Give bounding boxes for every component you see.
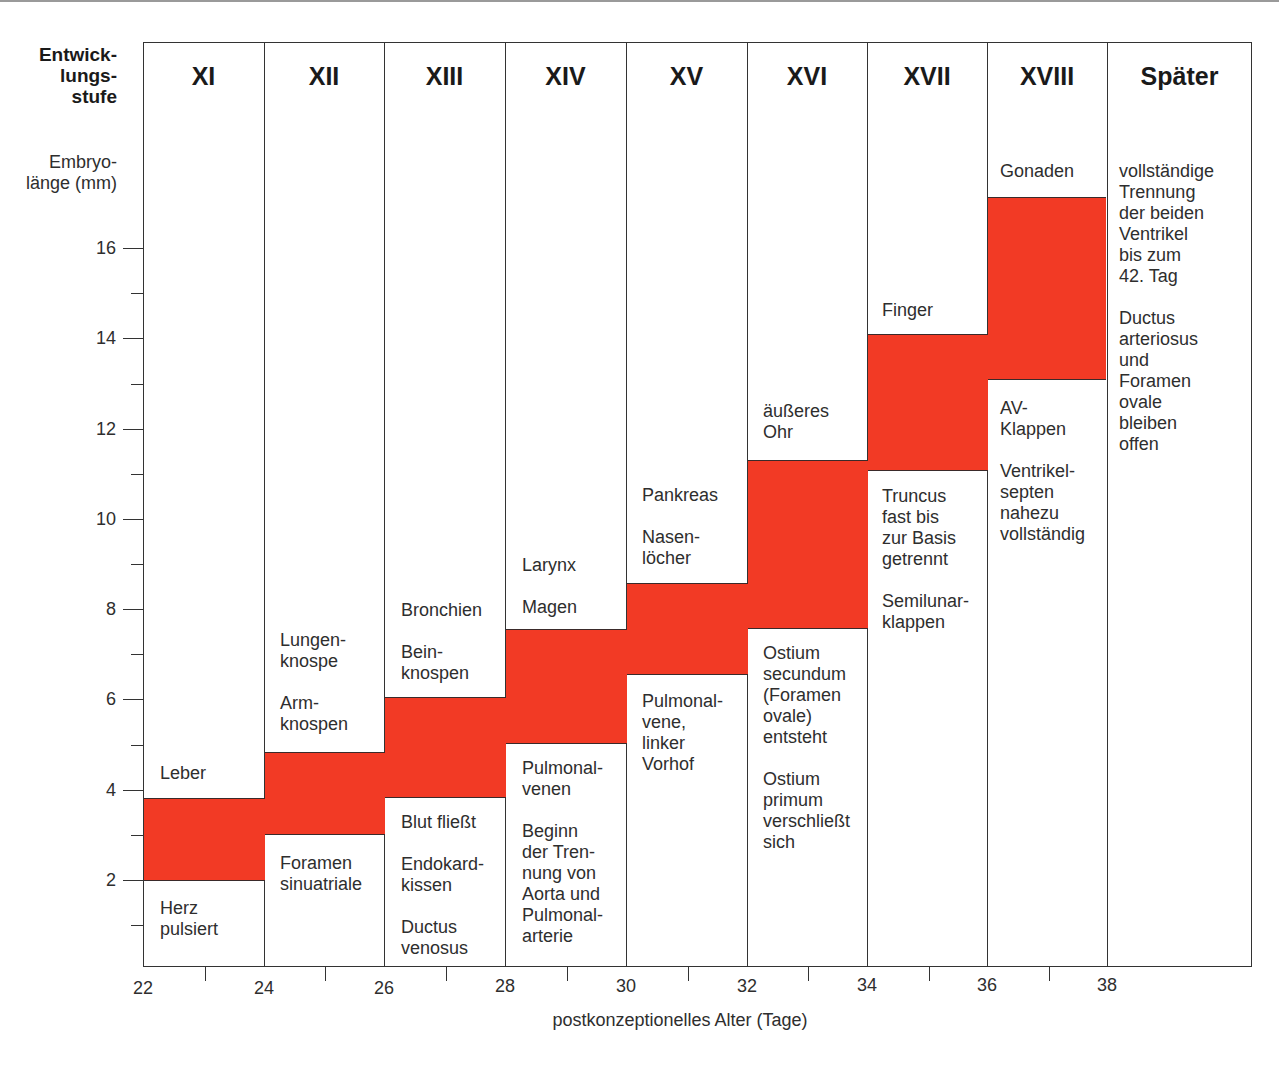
y-minor-tick bbox=[131, 654, 143, 655]
note-xv-above: Pankreas Nasen- löcher bbox=[642, 485, 718, 569]
stage-header-xiv: XIV bbox=[505, 62, 626, 91]
y-tick-10 bbox=[123, 519, 143, 520]
stage-header-spaeter: Später bbox=[1107, 62, 1252, 91]
x-label-32: 32 bbox=[727, 976, 767, 997]
length-bar-xviii bbox=[988, 197, 1106, 380]
y-tick-16 bbox=[123, 248, 143, 249]
y-minor-tick bbox=[131, 745, 143, 746]
y-minor-tick bbox=[131, 564, 143, 565]
length-bar-xiv bbox=[506, 629, 627, 744]
note-xvii-below: Truncus fast bis zur Basis getrennt Semi… bbox=[882, 486, 969, 633]
x-label-28: 28 bbox=[485, 976, 525, 997]
stage-header-xii: XII bbox=[264, 62, 384, 91]
note-xvi-below: Ostium secundum (Foramen ovale) entsteht… bbox=[763, 643, 850, 853]
y-minor-tick bbox=[131, 835, 143, 836]
x-minor-tick bbox=[808, 967, 809, 981]
stage-header-xi: XI bbox=[143, 62, 264, 91]
note-xv-below: Pulmonal- vene, linker Vorhof bbox=[642, 691, 723, 775]
y-label-10: 10 bbox=[76, 509, 116, 530]
note-xviii-above: Gonaden bbox=[1000, 161, 1074, 182]
y-tick-12 bbox=[123, 429, 143, 430]
x-minor-tick bbox=[1049, 967, 1050, 981]
note-xi-above: Leber bbox=[160, 763, 206, 784]
column-divider bbox=[987, 42, 988, 967]
column-divider bbox=[505, 42, 506, 967]
stage-header-xvii: XVII bbox=[867, 62, 987, 91]
note-spaeter: vollständige Trennung der beiden Ventrik… bbox=[1119, 161, 1214, 455]
y-tick-6 bbox=[123, 699, 143, 700]
stage-header-xiii: XIII bbox=[384, 62, 505, 91]
note-xiii-below: Blut fließt Endokard- kissen Ductus veno… bbox=[401, 812, 484, 959]
y-label-8: 8 bbox=[76, 599, 116, 620]
y-label-16: 16 bbox=[76, 238, 116, 259]
stage-header-xvi: XVI bbox=[747, 62, 867, 91]
stage-axis-title: Entwick- lungs- stufe bbox=[10, 44, 117, 107]
x-label-36: 36 bbox=[967, 975, 1007, 996]
x-minor-tick bbox=[325, 967, 326, 981]
x-label-26: 26 bbox=[364, 978, 404, 999]
note-xii-above: Lungen- knospe Arm- knospen bbox=[280, 630, 348, 735]
x-label-38: 38 bbox=[1087, 975, 1127, 996]
note-xiii-above: Bronchien Bein- knospen bbox=[401, 600, 482, 684]
x-axis-title: postkonzeptionelles Alter (Tage) bbox=[480, 1010, 880, 1031]
y-tick-14 bbox=[123, 338, 143, 339]
note-xvi-above: äußeres Ohr bbox=[763, 401, 829, 443]
x-label-34: 34 bbox=[847, 975, 887, 996]
x-minor-tick bbox=[205, 967, 206, 981]
note-xiv-below: Pulmonal- venen Beginn der Tren- nung vo… bbox=[522, 758, 603, 947]
y-label-4: 4 bbox=[76, 780, 116, 801]
length-bar-xii bbox=[265, 752, 385, 835]
y-minor-tick bbox=[131, 925, 143, 926]
column-divider bbox=[1107, 42, 1108, 967]
y-minor-tick bbox=[131, 474, 143, 475]
x-minor-tick bbox=[567, 967, 568, 981]
y-label-6: 6 bbox=[76, 689, 116, 710]
length-bar-xvi bbox=[748, 460, 868, 629]
length-bar-xv bbox=[627, 583, 748, 675]
x-label-22: 22 bbox=[123, 978, 163, 999]
length-bar-xi bbox=[144, 798, 265, 881]
length-bar-xiii bbox=[385, 697, 506, 798]
x-minor-tick bbox=[929, 967, 930, 981]
top-rule bbox=[0, 0, 1279, 2]
y-label-2: 2 bbox=[76, 870, 116, 891]
x-label-24: 24 bbox=[244, 978, 284, 999]
y-tick-8 bbox=[123, 609, 143, 610]
column-divider bbox=[626, 42, 627, 967]
stage-header-xv: XV bbox=[626, 62, 747, 91]
note-xiv-above: Larynx Magen bbox=[522, 555, 577, 618]
y-axis-title: Embryo- länge (mm) bbox=[10, 152, 117, 194]
length-bar-xvii bbox=[868, 334, 988, 471]
note-xi-below: Herz pulsiert bbox=[160, 898, 218, 940]
y-tick-4 bbox=[123, 790, 143, 791]
x-label-30: 30 bbox=[606, 976, 646, 997]
note-xii-below: Foramen sinuatriale bbox=[280, 853, 362, 895]
y-minor-tick bbox=[131, 384, 143, 385]
x-minor-tick bbox=[446, 967, 447, 981]
y-label-14: 14 bbox=[76, 328, 116, 349]
note-xvii-above: Finger bbox=[882, 300, 933, 321]
note-xviii-below: AV- Klappen Ventrikel- septen nahezu vol… bbox=[1000, 398, 1085, 545]
y-tick-2 bbox=[123, 880, 143, 881]
x-minor-tick bbox=[688, 967, 689, 981]
y-minor-tick bbox=[131, 293, 143, 294]
stage-header-xviii: XVIII bbox=[987, 62, 1107, 91]
y-label-12: 12 bbox=[76, 419, 116, 440]
